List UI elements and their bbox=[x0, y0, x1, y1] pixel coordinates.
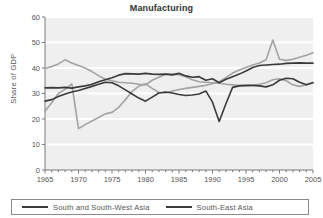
legend-line-swatch bbox=[166, 206, 192, 209]
svg-text:1975: 1975 bbox=[104, 175, 121, 184]
svg-text:1970: 1970 bbox=[70, 175, 87, 184]
svg-text:40: 40 bbox=[32, 64, 40, 73]
chart-container: Manufacturing Share of GDP 0102030405060… bbox=[0, 0, 323, 218]
chart-plot: 0102030405060196519701975198019851990199… bbox=[0, 0, 323, 218]
legend-label: South and South-West Asia bbox=[53, 203, 150, 212]
svg-text:1995: 1995 bbox=[238, 175, 255, 184]
legend-label: South-East Asia bbox=[197, 203, 253, 212]
svg-text:10: 10 bbox=[32, 140, 40, 149]
svg-text:2005: 2005 bbox=[305, 175, 322, 184]
legend-line-swatch bbox=[22, 206, 48, 209]
svg-text:50: 50 bbox=[32, 38, 40, 47]
svg-text:1985: 1985 bbox=[171, 175, 188, 184]
svg-text:1990: 1990 bbox=[204, 175, 221, 184]
svg-text:1980: 1980 bbox=[137, 175, 154, 184]
svg-text:20: 20 bbox=[32, 115, 40, 124]
svg-text:60: 60 bbox=[32, 13, 40, 22]
legend-items: South and South-West AsiaSouth-East Asia bbox=[12, 200, 310, 214]
svg-text:2000: 2000 bbox=[271, 175, 288, 184]
svg-text:0: 0 bbox=[36, 166, 40, 175]
legend-entry[interactable]: South and South-West Asia bbox=[22, 203, 150, 212]
legend-entry[interactable]: South-East Asia bbox=[166, 203, 253, 212]
legend-box: South and South-West AsiaSouth-East Asia bbox=[11, 199, 309, 215]
svg-text:1965: 1965 bbox=[37, 175, 54, 184]
svg-text:30: 30 bbox=[32, 89, 40, 98]
